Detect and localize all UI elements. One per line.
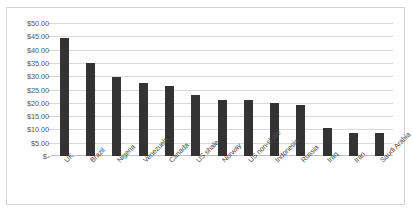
y-axis-tick-label: $10.00 [9, 125, 49, 134]
gridline [51, 63, 393, 64]
y-axis-tick-label: $- [9, 152, 49, 161]
gridline [51, 23, 393, 24]
y-axis-tick-label: $15.00 [9, 112, 49, 121]
y-axis-tick-label: $5.00 [9, 138, 49, 147]
y-axis-tick-label: $45.00 [9, 32, 49, 41]
gridline [51, 50, 393, 51]
bar [191, 95, 200, 156]
y-axis-tick-label: $20.00 [9, 98, 49, 107]
gridline [51, 76, 393, 77]
bar [244, 100, 253, 156]
y-axis-tick-label: $30.00 [9, 72, 49, 81]
bar [165, 86, 174, 156]
bar [139, 83, 148, 156]
x-axis-labels: UKBrazilNigeriaVenezuelaCanadaUS shaleNo… [51, 158, 393, 208]
bar [86, 63, 95, 156]
bar [218, 100, 227, 156]
bar [296, 105, 305, 156]
y-axis-tick-label: $40.00 [9, 45, 49, 54]
chart-frame: $50.00$45.00$40.00$35.00$30.00$25.00$20.… [6, 7, 405, 205]
bar [60, 38, 69, 156]
y-axis-tick-label: $35.00 [9, 58, 49, 67]
gridline [51, 36, 393, 37]
y-axis-tick-label: $25.00 [9, 85, 49, 94]
gridline [51, 90, 393, 91]
y-axis: $50.00$45.00$40.00$35.00$30.00$25.00$20.… [7, 23, 49, 156]
plot-area [51, 23, 393, 156]
bar [112, 77, 121, 156]
y-axis-tick-label: $50.00 [9, 19, 49, 28]
